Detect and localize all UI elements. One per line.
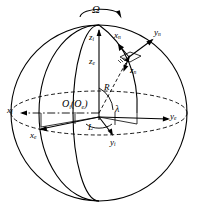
y-earth-arrowhead <box>163 116 170 121</box>
radius-label: R <box>104 83 110 92</box>
z-nav-label: zn <box>130 66 136 76</box>
y-inertial-label: yi <box>110 138 116 148</box>
earth-frames-diagram <box>0 0 199 213</box>
x-inertial-arrowhead <box>20 110 27 115</box>
spin-axis-arrowhead <box>97 29 102 36</box>
latitude-label: L <box>88 123 93 132</box>
z-nav-arrowhead <box>123 65 128 72</box>
omega-label: Ω <box>92 4 100 15</box>
x-nav-label: xn <box>114 31 121 41</box>
z-inertial-label: zi <box>89 33 94 43</box>
z-earth-label: ze <box>89 57 95 67</box>
x-inertial-label: xi <box>7 106 13 116</box>
origin-label: Oi(Oe) <box>62 99 88 110</box>
x-earth-label: xe <box>30 131 36 141</box>
rotation-arrowhead <box>116 10 122 18</box>
y-nav-label: yn <box>154 28 161 38</box>
tangent-plane-quad <box>120 52 141 62</box>
lambda-label: λ <box>115 104 119 114</box>
rotation-arc <box>80 9 120 17</box>
y-earth-label: ye <box>170 112 176 122</box>
